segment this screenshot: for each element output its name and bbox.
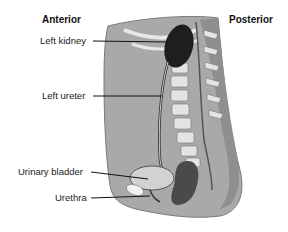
label-urethra: Urethra <box>55 193 87 203</box>
anterior-heading: Anterior <box>42 15 81 25</box>
posterior-heading: Posterior <box>229 15 273 25</box>
label-urinary-bladder: Urinary bladder <box>18 167 83 177</box>
label-left-ureter: Left ureter <box>42 91 85 101</box>
label-left-kidney: Left kidney <box>40 36 86 46</box>
